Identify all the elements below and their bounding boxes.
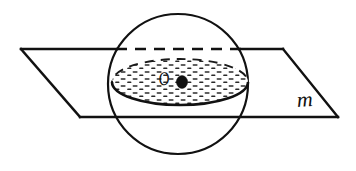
plane-label: m — [296, 89, 313, 111]
diagram-canvas — [0, 0, 356, 171]
plane-left-edge — [21, 49, 80, 117]
geometry-figure: O m — [0, 0, 356, 171]
center-point-dot — [176, 76, 187, 89]
